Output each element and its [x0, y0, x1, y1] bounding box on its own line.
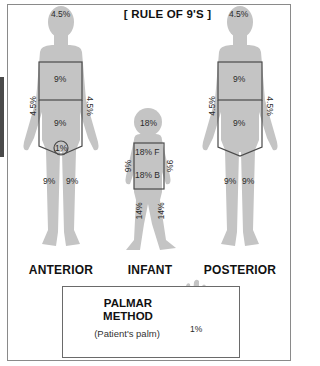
anterior-left-arm-value: 4.5% [85, 96, 95, 115]
palmar-subtitle: (Patient's palm) [77, 328, 177, 339]
anterior-right-leg-value: 9% [43, 176, 55, 186]
anterior-right-arm-value: 4.5% [28, 96, 38, 115]
infant-left-arm-value: 9% [165, 160, 175, 172]
infant-right-leg-value: 14% [134, 202, 144, 219]
infant-head-value: 18% [140, 118, 157, 128]
anterior-abdomen-value: 9% [54, 118, 66, 128]
posterior-left-leg-value: 9% [242, 176, 254, 186]
palmar-title: PALMAR METHOD [83, 297, 173, 323]
palmar-method-box: PALMAR METHOD (Patient's palm) [62, 286, 240, 358]
posterior-right-arm-value: 4.5% [207, 96, 217, 115]
anterior-chest-value: 9% [54, 74, 66, 84]
palm-hand-value: 1% [190, 324, 202, 334]
infant-caption: INFANT [120, 263, 180, 277]
anterior-genital-value: 1% [55, 143, 67, 153]
palmar-title-line1: PALMAR [83, 297, 173, 310]
anterior-left-leg-value: 9% [66, 176, 78, 186]
palmar-title-line2: METHOD [83, 310, 173, 323]
infant-right-arm-value: 9% [123, 160, 133, 172]
posterior-lower-back-value: 9% [233, 118, 245, 128]
infant-trunk-back-value: 18% B [135, 170, 160, 180]
infant-trunk-front-value: 18% F [135, 147, 160, 157]
posterior-head-value: 4.5% [229, 9, 248, 19]
posterior-caption: POSTERIOR [200, 263, 280, 277]
posterior-left-arm-value: 4.5% [265, 96, 275, 115]
posterior-upper-back-value: 9% [233, 74, 245, 84]
anterior-caption: ANTERIOR [26, 263, 96, 277]
posterior-right-leg-value: 9% [224, 176, 236, 186]
infant-left-leg-value: 14% [156, 202, 166, 219]
anterior-head-value: 4.5% [51, 9, 70, 19]
